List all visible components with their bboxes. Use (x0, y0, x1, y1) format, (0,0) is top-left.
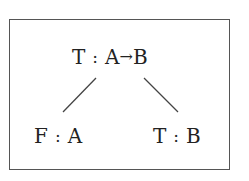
left-child-node: F:A (34, 126, 82, 147)
root-separator: : (92, 47, 98, 67)
right-child-formula: B (186, 124, 201, 148)
right-child-node: T:B (153, 126, 201, 147)
right-child-separator: : (173, 126, 179, 146)
right-child-truth-value: T (153, 124, 166, 148)
root-formula-left: A (105, 45, 119, 69)
root-node: T:A→B (72, 47, 148, 69)
left-child-separator: : (55, 126, 61, 146)
left-child-formula: A (68, 124, 82, 148)
implication-arrow-icon: → (120, 47, 133, 67)
left-child-truth-value: F (34, 124, 48, 148)
root-truth-value: T (72, 45, 85, 69)
root-formula-right: B (133, 45, 148, 69)
